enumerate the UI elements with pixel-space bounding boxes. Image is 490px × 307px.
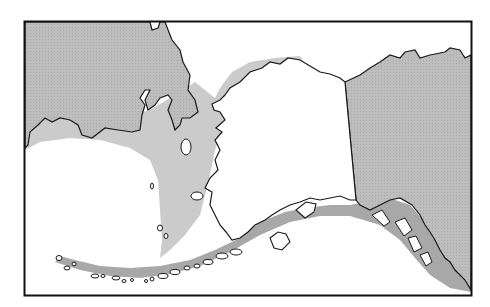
range-map [0, 0, 490, 307]
map-svg [0, 0, 490, 307]
